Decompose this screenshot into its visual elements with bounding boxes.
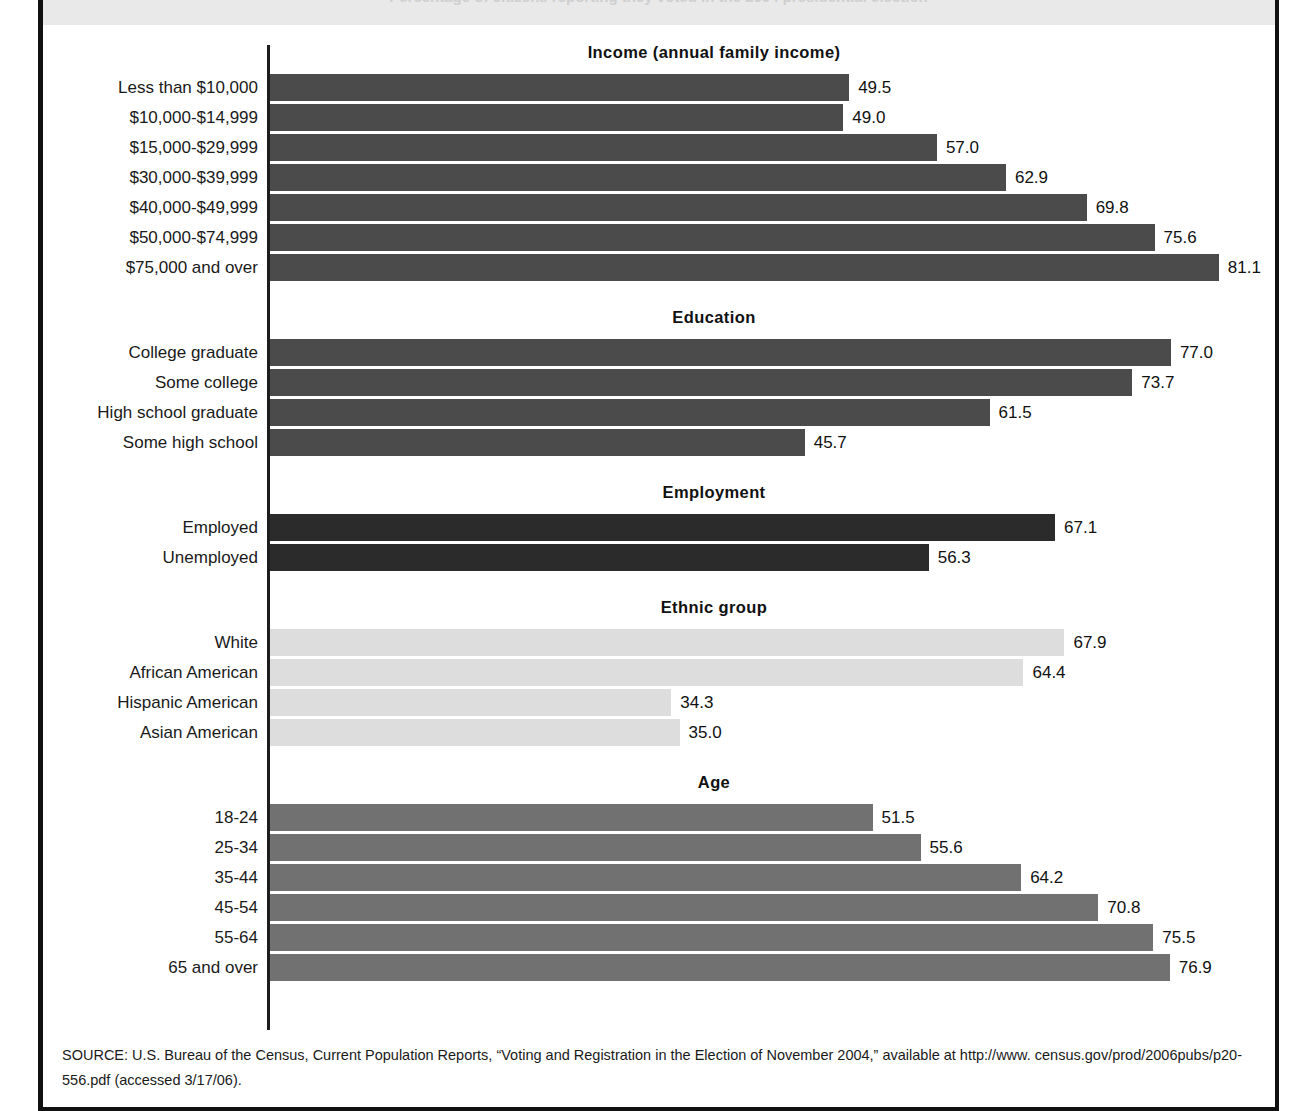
bar-row[interactable]: Unemployed56.3 (43, 544, 1275, 574)
bar-value-label: 56.3 (938, 548, 971, 568)
bar[interactable] (270, 429, 805, 456)
bar[interactable] (270, 104, 843, 131)
bar-track: 75.5 (270, 924, 1195, 951)
bar-category-label: $15,000-$29,999 (43, 134, 258, 161)
bar[interactable] (270, 134, 937, 161)
bar[interactable] (270, 514, 1055, 541)
bar-row[interactable]: 35-4464.2 (43, 864, 1275, 894)
bar-category-label: Hispanic American (43, 689, 258, 716)
bar-row[interactable]: 55-6475.5 (43, 924, 1275, 954)
bar[interactable] (270, 659, 1023, 686)
chart-group: Age18-2451.525-3455.635-4464.245-5470.85… (43, 749, 1275, 984)
bar-track: 61.5 (270, 399, 1032, 426)
bar[interactable] (270, 894, 1098, 921)
bar-value-label: 73.7 (1141, 373, 1174, 393)
bar-row[interactable]: White67.9 (43, 629, 1275, 659)
bar-track: 49.5 (270, 74, 891, 101)
bar-row[interactable]: High school graduate61.5 (43, 399, 1275, 429)
bar-row[interactable]: $10,000-$14,99949.0 (43, 104, 1275, 134)
bar[interactable] (270, 339, 1171, 366)
bar-value-label: 67.9 (1073, 633, 1106, 653)
bar-category-label: 65 and over (43, 954, 258, 981)
bar[interactable] (270, 369, 1132, 396)
bar-row[interactable]: Less than $10,00049.5 (43, 74, 1275, 104)
bar-row[interactable]: Some college73.7 (43, 369, 1275, 399)
bar-row[interactable]: 45-5470.8 (43, 894, 1275, 924)
bar[interactable] (270, 924, 1153, 951)
bar[interactable] (270, 864, 1021, 891)
chart-group: EmploymentEmployed67.1Unemployed56.3 (43, 459, 1275, 574)
chart-groups: Income (annual family income)Less than $… (43, 25, 1275, 984)
bar[interactable] (270, 629, 1064, 656)
bar-category-label: Asian American (43, 719, 258, 746)
bar-row[interactable]: Employed67.1 (43, 514, 1275, 544)
bar[interactable] (270, 834, 921, 861)
bar-track: 75.6 (270, 224, 1197, 251)
bar[interactable] (270, 954, 1170, 981)
bar-value-label: 75.6 (1164, 228, 1197, 248)
bar-track: 73.7 (270, 369, 1174, 396)
bar[interactable] (270, 164, 1006, 191)
bar[interactable] (270, 254, 1219, 281)
bar-row[interactable]: $75,000 and over81.1 (43, 254, 1275, 284)
bar-row[interactable]: Some high school45.7 (43, 429, 1275, 459)
bar-row[interactable]: $40,000-$49,99969.8 (43, 194, 1275, 224)
group-title: Income (annual family income) (43, 43, 1275, 62)
bar-track: 55.6 (270, 834, 963, 861)
bar-category-label: $75,000 and over (43, 254, 258, 281)
bar-value-label: 76.9 (1179, 958, 1212, 978)
group-rows: Less than $10,00049.5$10,000-$14,99949.0… (43, 74, 1275, 284)
bar-category-label: White (43, 629, 258, 656)
bar[interactable] (270, 804, 873, 831)
group-rows: Employed67.1Unemployed56.3 (43, 514, 1275, 574)
bar[interactable] (270, 544, 929, 571)
bar-row[interactable]: 65 and over76.9 (43, 954, 1275, 984)
bar-category-label: $40,000-$49,999 (43, 194, 258, 221)
bar-value-label: 62.9 (1015, 168, 1048, 188)
bar-row[interactable]: $50,000-$74,99975.6 (43, 224, 1275, 254)
bar-category-label: Unemployed (43, 544, 258, 571)
bar-row[interactable]: 25-3455.6 (43, 834, 1275, 864)
bar-value-label: 67.1 (1064, 518, 1097, 538)
bar[interactable] (270, 399, 990, 426)
bar-category-label: Less than $10,000 (43, 74, 258, 101)
bar-track: 45.7 (270, 429, 847, 456)
bar-track: 64.4 (270, 659, 1066, 686)
bar-track: 76.9 (270, 954, 1212, 981)
bar-row[interactable]: 18-2451.5 (43, 804, 1275, 834)
bar-value-label: 51.5 (882, 808, 915, 828)
frame-border-bottom (38, 1107, 1279, 1111)
bar-category-label: 55-64 (43, 924, 258, 951)
bar-category-label: High school graduate (43, 399, 258, 426)
bar-row[interactable]: $15,000-$29,99957.0 (43, 134, 1275, 164)
bar-row[interactable]: Hispanic American34.3 (43, 689, 1275, 719)
bar-track: 57.0 (270, 134, 979, 161)
bar-value-label: 69.8 (1096, 198, 1129, 218)
bar-value-label: 64.4 (1032, 663, 1065, 683)
bar[interactable] (270, 224, 1155, 251)
group-title: Employment (43, 483, 1275, 502)
bar[interactable] (270, 719, 680, 746)
bar-track: 49.0 (270, 104, 885, 131)
bar-row[interactable]: $30,000-$39,99962.9 (43, 164, 1275, 194)
bar-row[interactable]: College graduate77.0 (43, 339, 1275, 369)
bar-category-label: $30,000-$39,999 (43, 164, 258, 191)
bar-value-label: 57.0 (946, 138, 979, 158)
bar-row[interactable]: African American64.4 (43, 659, 1275, 689)
bar-track: 69.8 (270, 194, 1129, 221)
bar-value-label: 45.7 (814, 433, 847, 453)
bar-row[interactable]: Asian American35.0 (43, 719, 1275, 749)
bar-category-label: African American (43, 659, 258, 686)
bar-track: 67.1 (270, 514, 1097, 541)
bar-category-label: College graduate (43, 339, 258, 366)
bar[interactable] (270, 74, 849, 101)
bar-track: 81.1 (270, 254, 1261, 281)
bar[interactable] (270, 194, 1087, 221)
bar-track: 51.5 (270, 804, 915, 831)
bar-category-label: $10,000-$14,999 (43, 104, 258, 131)
bar-value-label: 77.0 (1180, 343, 1213, 363)
bar-value-label: 81.1 (1228, 258, 1261, 278)
bar-value-label: 49.0 (852, 108, 885, 128)
bar[interactable] (270, 689, 671, 716)
bar-value-label: 35.0 (689, 723, 722, 743)
